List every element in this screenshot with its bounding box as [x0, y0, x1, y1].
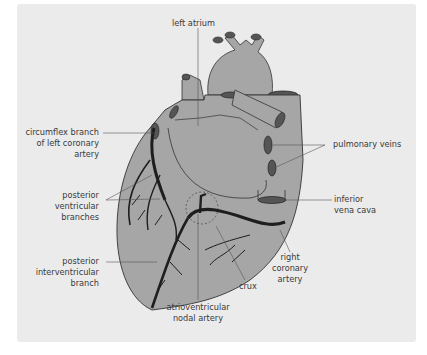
vessel-opening-2 — [225, 32, 235, 38]
vessel-opening-1 — [213, 37, 223, 43]
label-crux: crux — [239, 281, 257, 292]
label-line: circumflex branch — [20, 127, 99, 138]
label-line: branches — [20, 212, 99, 223]
label-line: of left coronary — [20, 138, 99, 149]
label-pulmonary-veins: pulmonary veins — [333, 139, 401, 150]
label-line: vena cava — [334, 205, 376, 216]
label-line: posterior — [20, 190, 99, 201]
label-circumflex-branch: circumflex branch of left coronary arter… — [20, 127, 99, 159]
label-line: atrioventricular — [163, 302, 233, 313]
label-left-atrium: left atrium — [172, 18, 215, 29]
label-line: interventricular — [20, 267, 99, 278]
label-line: artery — [20, 149, 99, 160]
ivc-opening — [258, 197, 286, 204]
label-atrioventricular-nodal-artery: atrioventricular nodal artery — [163, 302, 233, 324]
left-stub-opening — [182, 74, 190, 80]
label-line: right — [268, 252, 312, 263]
label-line: artery — [268, 274, 312, 285]
vessel-opening-3 — [251, 34, 261, 40]
label-line: ventricular — [20, 201, 99, 212]
label-right-coronary-artery: right coronary artery — [268, 252, 312, 284]
pulmonary-vein-1 — [264, 136, 272, 154]
pulmonary-vein-2 — [268, 160, 276, 176]
label-inferior-vena-cava: inferior vena cava — [334, 194, 376, 216]
label-line: branch — [20, 278, 99, 289]
label-line: nodal artery — [163, 313, 233, 324]
aortic-arch — [208, 35, 273, 95]
label-line: inferior — [334, 194, 376, 205]
label-posterior-ventricular-branches: posterior ventricular branches — [20, 190, 99, 222]
label-line: coronary — [268, 263, 312, 274]
label-line: posterior — [20, 256, 99, 267]
label-posterior-interventricular-branch: posterior interventricular branch — [20, 256, 99, 288]
